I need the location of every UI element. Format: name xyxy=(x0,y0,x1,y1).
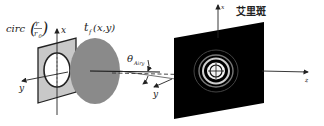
angle-label: θ Airy xyxy=(127,53,145,67)
svg-text:Airy: Airy xyxy=(133,60,145,67)
svg-text:circ: circ xyxy=(6,23,26,34)
lens-label: t f (x,y) xyxy=(84,21,115,36)
airy-disk-title: 艾里斑 xyxy=(236,5,266,17)
svg-text:): ) xyxy=(41,19,48,38)
aperture-label: circ ( r r 0 ) xyxy=(6,19,48,39)
svg-text:r: r xyxy=(36,20,40,28)
svg-text:r: r xyxy=(34,30,38,38)
left-x-label: x xyxy=(61,25,66,35)
right-z-axis xyxy=(262,71,308,72)
right-x-label: x xyxy=(221,3,225,10)
mid-y-axis xyxy=(154,79,172,87)
left-y-label: y xyxy=(18,83,25,93)
airy-disk-diagram: circ ( r r 0 ) x y t f (x,y) θ Airy y x … xyxy=(0,0,324,126)
mid-y-label: y xyxy=(152,89,159,99)
svg-text:(x,y): (x,y) xyxy=(93,22,115,33)
right-z-label: z xyxy=(304,76,309,83)
svg-text:θ: θ xyxy=(127,53,133,64)
